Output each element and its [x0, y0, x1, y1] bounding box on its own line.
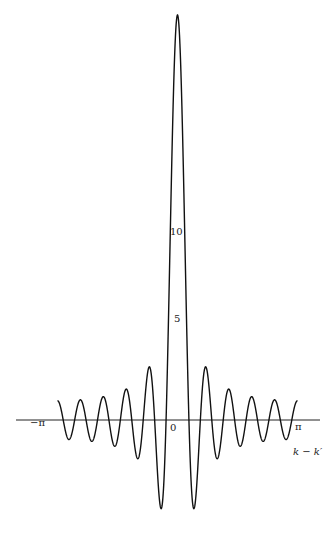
x-axis-label-minus: − — [302, 446, 310, 457]
x-axis-label: k − k′ — [293, 446, 322, 457]
x-tick-neg-pi: −π — [30, 417, 45, 428]
kernel-curve — [58, 15, 298, 509]
y-tick-10: 10 — [170, 226, 183, 237]
x-axis-label-k: k — [293, 446, 299, 457]
origin-label: 0 — [170, 422, 176, 433]
y-tick-5: 5 — [174, 313, 180, 324]
x-axis-label-kprime: k′ — [314, 446, 322, 457]
dirichlet-kernel-plot — [0, 0, 336, 548]
x-tick-pi: π — [295, 421, 302, 432]
